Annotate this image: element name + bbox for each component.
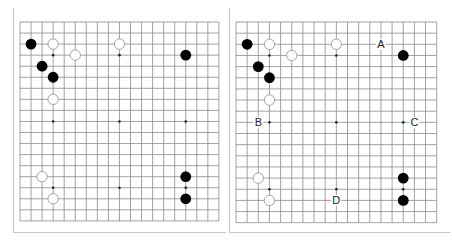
- white-stone-icon: [48, 39, 58, 49]
- white-stone-icon: [331, 39, 341, 49]
- black-stone-icon: [180, 50, 191, 61]
- go-grid-right[interactable]: ABCD: [226, 0, 452, 240]
- white-stone-icon: [264, 195, 274, 205]
- star-point-icon: [402, 121, 405, 124]
- black-stone-icon: [398, 50, 409, 61]
- black-stone-icon: [180, 171, 191, 182]
- star-point-icon: [52, 186, 55, 189]
- go-board-right: ABCD: [226, 0, 452, 240]
- star-point-icon: [402, 188, 405, 191]
- black-stone-icon: [37, 61, 48, 72]
- black-stone-icon: [180, 193, 191, 204]
- white-stone-icon: [264, 39, 274, 49]
- point-label-d: D: [332, 194, 340, 206]
- white-stone-icon: [287, 50, 297, 60]
- star-point-icon: [335, 54, 338, 57]
- star-point-icon: [52, 120, 55, 123]
- star-point-icon: [335, 188, 338, 191]
- star-point-icon: [118, 54, 121, 57]
- point-label-b: B: [255, 116, 262, 128]
- white-stone-icon: [37, 172, 47, 182]
- go-grid-left[interactable]: [0, 0, 226, 240]
- star-point-icon: [52, 54, 55, 57]
- black-stone-icon: [48, 72, 59, 83]
- white-stone-icon: [48, 94, 58, 104]
- white-stone-icon: [70, 50, 80, 60]
- white-stone-icon: [114, 39, 124, 49]
- black-stone-icon: [26, 39, 37, 50]
- star-point-icon: [268, 188, 271, 191]
- white-stone-icon: [264, 95, 274, 105]
- star-point-icon: [268, 54, 271, 57]
- white-stone-icon: [253, 173, 263, 183]
- black-stone-icon: [242, 39, 253, 50]
- star-point-icon: [118, 120, 121, 123]
- star-point-icon: [184, 120, 187, 123]
- star-point-icon: [118, 186, 121, 189]
- star-point-icon: [268, 121, 271, 124]
- white-stone-icon: [48, 194, 58, 204]
- point-label-c: C: [410, 116, 418, 128]
- star-point-icon: [335, 121, 338, 124]
- black-stone-icon: [398, 195, 409, 206]
- black-stone-icon: [398, 173, 409, 184]
- star-point-icon: [184, 186, 187, 189]
- black-stone-icon: [264, 72, 275, 83]
- go-board-left: [0, 0, 226, 240]
- point-label-a: A: [377, 38, 385, 50]
- black-stone-icon: [253, 61, 264, 72]
